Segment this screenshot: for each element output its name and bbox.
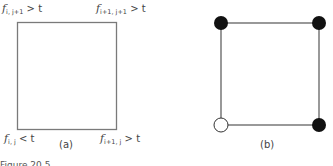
panel-label-a: (a) [59, 139, 73, 150]
panel-label-b: (b) [260, 139, 274, 150]
cell-square-b [221, 23, 319, 125]
label-bottom-right: fi+1, j > t [100, 134, 140, 147]
relation: > t [27, 3, 42, 14]
relation: > t [130, 3, 145, 14]
vertex-top-left-filled [214, 16, 228, 30]
figure-caption: Figure 20.5 ... [0, 161, 62, 166]
vertex-bottom-left-open [214, 118, 228, 132]
subscript: i, j+1 [6, 8, 23, 16]
vertex-bottom-right-filled [312, 118, 326, 132]
figure-canvas [0, 0, 333, 166]
subscript: i+1, j [104, 138, 121, 146]
label-top-right: fi+1, j+1 > t [96, 4, 146, 17]
cell-square-a [18, 23, 117, 130]
label-bottom-left: fi, j < t [4, 134, 35, 147]
vertex-top-right-filled [312, 16, 326, 30]
subscript: i, j [8, 138, 16, 146]
subscript: i+1, j+1 [100, 8, 127, 16]
label-top-left: fi, j+1 > t [2, 4, 42, 17]
relation: > t [125, 133, 140, 144]
relation: < t [19, 133, 34, 144]
